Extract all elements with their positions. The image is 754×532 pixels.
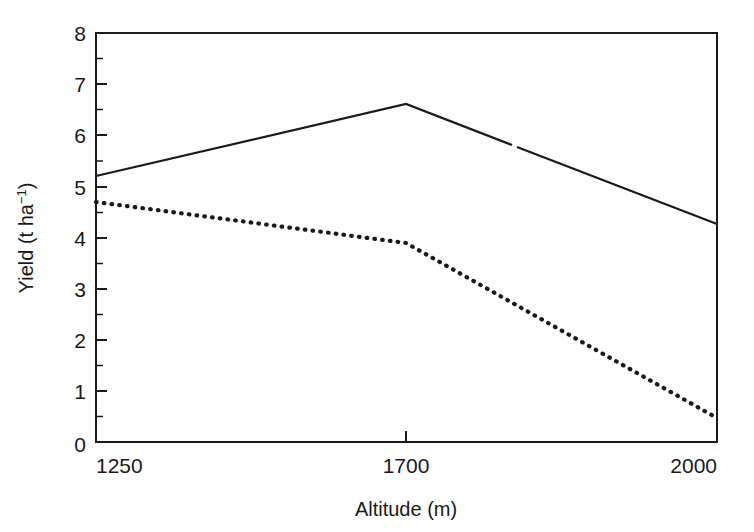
- y-tick-label: 2: [74, 329, 86, 352]
- y-axis-title-base: Yield (t ha: [15, 203, 37, 293]
- y-tick-label: 3: [74, 278, 86, 301]
- x-tick-label: 1700: [383, 454, 430, 477]
- y-tick-label: 7: [74, 73, 86, 96]
- x-axis-title: Altitude (m): [355, 498, 457, 520]
- y-axis-tick-labels: 8 7 6 5 4 3 2 1 0: [74, 22, 86, 456]
- y-axis-title: Yield (t ha−1): [14, 183, 37, 294]
- svg-text:Yield (t ha−1): Yield (t ha−1): [14, 183, 37, 294]
- x-tick-label: 1250: [96, 454, 143, 477]
- y-tick-label: 1: [74, 380, 86, 403]
- y-axis-title-close: ): [15, 183, 37, 190]
- y-tick-label: 6: [74, 124, 86, 147]
- y-axis-title-superscript: −1: [14, 189, 29, 204]
- plot-area-border: [96, 33, 717, 442]
- chart-figure: 8 7 6 5 4 3 2 1 0 1250 1700 2000 Altitud…: [0, 0, 754, 532]
- plot-frame: [96, 33, 717, 442]
- y-tick-label: 4: [74, 227, 86, 250]
- y-tick-label: 8: [74, 22, 86, 45]
- y-tick-label: 0: [74, 433, 86, 456]
- y-tick-label: 5: [74, 176, 86, 199]
- x-tick-label: 2000: [670, 454, 717, 477]
- chart-canvas: 8 7 6 5 4 3 2 1 0 1250 1700 2000 Altitud…: [0, 0, 754, 532]
- x-axis-tick-labels: 1250 1700 2000: [96, 454, 717, 477]
